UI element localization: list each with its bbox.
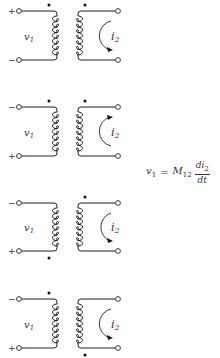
voltage-label: v1	[24, 222, 34, 235]
secondary-top-wire	[78, 299, 116, 304]
secondary-bottom-wire	[78, 151, 116, 156]
primary-polarity-dot-icon	[48, 292, 51, 295]
primary-top-terminal	[17, 297, 22, 302]
secondary-polarity-dot-icon	[84, 196, 87, 199]
eq-derivative: di2 dt	[195, 160, 210, 185]
primary-top-wire	[22, 299, 58, 304]
primary-bottom-wire	[22, 151, 58, 156]
eq-coefficient: M12	[173, 165, 192, 179]
primary-bottom-terminal	[17, 154, 22, 159]
primary-top-wire	[22, 107, 58, 112]
secondary-polarity-dot-icon	[84, 354, 87, 357]
secondary-polarity-dot-icon	[84, 4, 87, 7]
polarity-sign-bottom: −	[8, 55, 16, 65]
primary-bottom-wire	[22, 55, 58, 60]
current-direction-arrow	[99, 21, 111, 50]
arrowhead-icon	[107, 115, 113, 120]
current-direction-arrow	[99, 117, 111, 146]
primary-bottom-terminal	[17, 249, 22, 254]
polarity-sign-top: −	[8, 294, 16, 304]
secondary-top-terminal	[116, 297, 121, 302]
secondary-top-wire	[78, 107, 116, 112]
secondary-bottom-wire	[78, 55, 116, 60]
mutual-inductance-equation: v1 = M12 di2 dt	[146, 160, 210, 185]
secondary-top-wire	[78, 11, 116, 16]
arrowhead-icon	[107, 238, 113, 243]
polarity-sign-top: −	[8, 198, 16, 208]
transformer-diagram-d: −+v1i2	[8, 292, 120, 357]
secondary-coil	[53, 16, 59, 55]
primary-top-terminal	[17, 105, 22, 110]
secondary-top-terminal	[116, 9, 121, 14]
secondary-top-terminal	[116, 201, 121, 206]
secondary-bottom-wire	[78, 343, 116, 348]
current-label: i2	[111, 126, 120, 140]
polarity-sign-bottom: +	[8, 151, 16, 161]
primary-polarity-dot-icon	[48, 4, 51, 7]
primary-coil	[77, 16, 83, 55]
transformer-diagram-a: +−v1i2	[8, 4, 120, 66]
current-label: i2	[111, 221, 120, 235]
secondary-bottom-terminal	[116, 346, 121, 351]
voltage-label: v1	[24, 319, 34, 332]
secondary-bottom-wire	[78, 246, 116, 251]
secondary-bottom-terminal	[116, 154, 121, 159]
primary-bottom-wire	[22, 246, 58, 251]
polarity-sign-top: −	[8, 102, 16, 112]
eq-denominator: dt	[198, 175, 207, 185]
primary-coil	[77, 304, 83, 343]
primary-coil	[77, 208, 83, 246]
arrowhead-icon	[107, 47, 113, 52]
primary-top-terminal	[17, 201, 22, 206]
voltage-label: v1	[24, 127, 34, 140]
secondary-polarity-dot-icon	[84, 100, 87, 103]
primary-bottom-terminal	[17, 346, 22, 351]
polarity-sign-top: +	[8, 6, 16, 16]
secondary-coil	[53, 208, 59, 246]
primary-top-terminal	[17, 9, 22, 14]
secondary-bottom-terminal	[116, 58, 121, 63]
primary-coil	[77, 112, 83, 151]
primary-top-wire	[22, 11, 58, 16]
secondary-coil	[53, 304, 59, 343]
secondary-bottom-terminal	[116, 249, 121, 254]
transformer-diagram-b: −+v1i2	[8, 100, 120, 162]
voltage-label: v1	[24, 31, 34, 44]
polarity-sign-bottom: +	[8, 343, 16, 353]
primary-top-wire	[22, 203, 58, 208]
eq-equals: =	[160, 167, 168, 178]
primary-polarity-dot-icon	[48, 257, 51, 260]
current-direction-arrow	[99, 309, 111, 338]
primary-bottom-wire	[22, 343, 58, 348]
secondary-top-wire	[78, 203, 116, 208]
polarity-sign-bottom: +	[8, 246, 16, 256]
current-direction-arrow	[101, 213, 111, 241]
secondary-coil	[53, 112, 59, 151]
eq-lhs: v1	[146, 165, 156, 179]
secondary-top-terminal	[116, 105, 121, 110]
current-label: i2	[111, 30, 120, 44]
primary-polarity-dot-icon	[48, 100, 51, 103]
primary-bottom-terminal	[17, 58, 22, 63]
arrowhead-icon	[107, 335, 113, 340]
current-label: i2	[111, 318, 120, 332]
transformer-diagram-c: −+v1i2	[8, 196, 120, 260]
eq-numerator: di2	[195, 160, 210, 175]
